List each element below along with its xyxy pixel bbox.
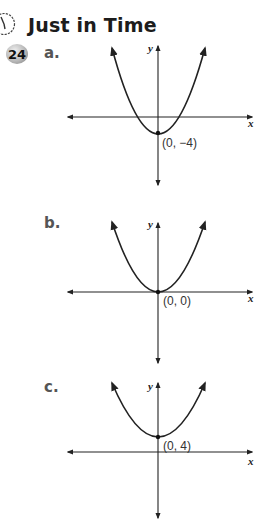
- x-axis-label: x: [247, 455, 254, 467]
- vertex-label: (0, 4): [163, 439, 191, 453]
- vertex-label: (0, 0): [163, 294, 191, 308]
- graph-a: (0, −4) x y: [68, 42, 254, 185]
- x-axis-label: x: [247, 117, 254, 129]
- graphs-canvas: (0, −4) x y (0, 0) x y (0, 4) x y: [0, 0, 266, 520]
- y-axis-label: y: [146, 218, 153, 230]
- vertex-point: [156, 131, 160, 135]
- vertex-point: [156, 290, 160, 294]
- y-axis-label: y: [146, 42, 153, 54]
- graph-b: (0, 0) x y: [68, 218, 254, 363]
- vertex-point: [156, 435, 160, 439]
- x-axis-label: x: [247, 292, 254, 304]
- vertex-label: (0, −4): [162, 136, 197, 150]
- graph-c: (0, 4) x y: [68, 380, 254, 518]
- y-axis-label: y: [146, 380, 153, 392]
